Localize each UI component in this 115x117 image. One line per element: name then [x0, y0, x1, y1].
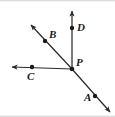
point-label-a: A — [84, 92, 91, 103]
point-dot-a — [93, 94, 97, 98]
point-label-d: D — [77, 22, 85, 33]
rays-drawing — [0, 0, 115, 117]
ray-pa — [72, 69, 110, 112]
point-dot-p — [70, 67, 75, 72]
point-label-b: B — [49, 29, 56, 40]
point-label-p: P — [76, 57, 83, 68]
point-dot-c — [30, 65, 34, 69]
geometry-figure: P D B C A — [0, 0, 115, 117]
ray-pc — [12, 67, 72, 69]
point-dot-d — [70, 26, 74, 30]
point-dot-b — [43, 39, 47, 43]
point-label-c: C — [27, 71, 34, 82]
